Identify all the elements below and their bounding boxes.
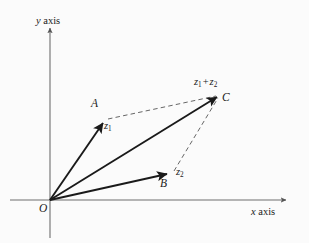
vector-addition-diagram: y axis x axis O A B C z1 z2 z1+z2 (0, 0, 309, 243)
vector-label-z1-sub: 1 (108, 125, 112, 133)
x-axis-label: x axis (251, 207, 275, 218)
vector-o-to-c (50, 97, 217, 200)
vector-label-sum: z1+z2 (194, 77, 217, 88)
sum-first-sub: 1 (198, 81, 202, 89)
sum-second-sub: 2 (214, 81, 218, 89)
x-axis-label-var: x (251, 206, 256, 217)
y-axis-label-word: axis (43, 15, 60, 26)
x-axis-label-word: axis (258, 206, 275, 217)
point-label-b: B (160, 178, 167, 190)
vector-label-z2: z2 (176, 167, 184, 178)
vector-o-to-a (50, 123, 103, 200)
y-axis-label-var: y (36, 15, 41, 26)
vector-o-to-b (50, 174, 167, 200)
origin-label: O (39, 203, 47, 215)
sum-operator: + (202, 76, 210, 87)
vector-label-z2-sub: 2 (180, 171, 184, 179)
y-axis-label: y axis (36, 16, 60, 27)
vector-label-z1: z1 (104, 121, 112, 132)
point-label-c: C (222, 92, 230, 104)
point-label-a: A (91, 98, 98, 110)
